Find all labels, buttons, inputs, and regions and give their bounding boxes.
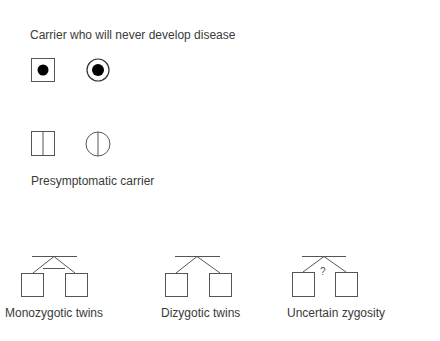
male-carrier-dot-square-icon	[32, 59, 55, 82]
female-carrier-dot-circle-icon	[87, 59, 109, 81]
male-presymptomatic-split-square-icon	[32, 132, 55, 156]
monozygotic-twins-icon	[22, 257, 88, 297]
female-presymptomatic-split-circle-icon	[86, 132, 110, 156]
uncertain-zygosity-label: Uncertain zygosity	[287, 306, 385, 320]
pedigree-symbols-diagram	[0, 0, 440, 341]
uncertain-zygosity-question-mark: ?	[320, 266, 326, 277]
monozygotic-twins-label: Monozygotic twins	[5, 306, 103, 320]
dizygotic-twins-label: Dizygotic twins	[161, 306, 240, 320]
dizygotic-twins-icon	[166, 257, 232, 297]
presymptomatic-carrier-label: Presymptomatic carrier	[31, 174, 154, 188]
